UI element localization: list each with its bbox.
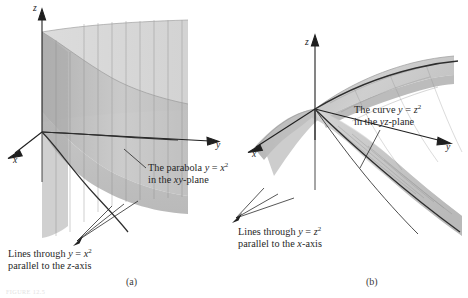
panel-a-y-axis-label: y: [216, 139, 220, 150]
surface-left-flank: [42, 32, 68, 238]
panel-a-z-axis-label: z: [33, 2, 37, 13]
figure-container: z x y The parabola y = x2 in the xy-plan…: [0, 0, 468, 298]
x-axis: [15, 132, 42, 153]
callout-parabola-line1: The parabola y = x2: [148, 162, 228, 174]
z-axis-arrowhead: [311, 35, 318, 46]
callout-parabola-xy: The parabola y = x2 in the xy-plane: [148, 162, 228, 187]
z-axis-arrowhead: [38, 9, 45, 20]
callout-rulings-line1: Lines through y = x2: [8, 248, 92, 260]
callout-rulings-line2: parallel to the x-axis: [238, 238, 322, 250]
callout-rulings-line2: parallel to the z-axis: [8, 260, 92, 272]
panel-a-x-axis-label: x: [13, 154, 17, 165]
leader-rulings: [73, 201, 138, 246]
panel-b-y-axis-label: y: [446, 141, 450, 152]
panel-b-graphic: [234, 0, 468, 298]
callout-parabola-line2: in the xy-plane: [148, 174, 228, 186]
callout-rulings-line1: Lines through y = z2: [238, 226, 322, 238]
callout-rulings-x: Lines through y = z2 parallel to the x-a…: [238, 226, 322, 251]
panel-b: z x y The curve y = z2 in the yz-plane L…: [234, 0, 468, 298]
figure-running-caption: FIGURE 12.5: [6, 288, 45, 295]
panel-b-caption: (b): [366, 276, 378, 287]
callout-curve-line2: in the yz-plane: [354, 116, 421, 128]
panel-b-z-axis-label: z: [305, 36, 309, 47]
callout-curve-yz: The curve y = z2 in the yz-plane: [354, 104, 421, 129]
panel-a: z x y The parabola y = x2 in the xy-plan…: [0, 0, 234, 298]
panel-a-caption: (a): [126, 276, 137, 287]
callout-curve-line1: The curve y = z2: [354, 104, 421, 116]
leader-rulings: [232, 188, 294, 223]
callout-rulings-z: Lines through y = x2 parallel to the z-a…: [8, 248, 92, 273]
panel-b-x-axis-label: x: [252, 148, 256, 159]
